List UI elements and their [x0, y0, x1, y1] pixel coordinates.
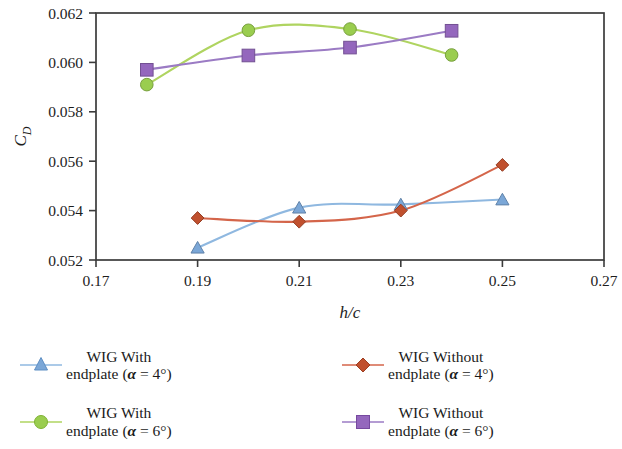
- legend-entry-wig-without-endplate-alpha4[interactable]: WIG Without endplate (α = 4°): [320, 338, 622, 393]
- legend-label-line2: endplate (α = 4°): [66, 365, 172, 382]
- square-marker-icon: [340, 409, 386, 435]
- x-tick-label: 0.27: [590, 272, 617, 289]
- chart-svg: 0.170.190.210.230.250.27 0.0520.0540.056…: [0, 0, 622, 340]
- legend-entry-wig-without-endplate-alpha6[interactable]: WIG Without endplate (α = 6°): [320, 395, 622, 449]
- legend-label-line1: WIG Without: [398, 348, 483, 365]
- y-tick-label: 0.058: [48, 103, 83, 120]
- series-line-1: [198, 165, 503, 222]
- svg-text:CD: CD: [11, 126, 34, 146]
- circle-marker-icon: [18, 409, 64, 435]
- x-tick-label: 0.21: [286, 272, 313, 289]
- y-tick-label: 0.056: [48, 153, 83, 170]
- figure-container: 0.170.190.210.230.250.27 0.0520.0540.056…: [0, 0, 622, 449]
- legend-label-line2: endplate (α = 6°): [388, 422, 494, 439]
- legend-label: WIG With endplate (α = 4°): [64, 348, 172, 383]
- legend-label-line2: endplate (α = 4°): [388, 365, 494, 382]
- legend-label: WIG Without endplate (α = 4°): [386, 348, 494, 383]
- y-axis-title: CD: [11, 126, 34, 146]
- plot-area: 0.170.190.210.230.250.27 0.0520.0540.056…: [0, 0, 622, 340]
- legend-label: WIG Without endplate (α = 6°): [386, 404, 494, 439]
- data-point-marker: [242, 49, 255, 62]
- x-tick-label: 0.25: [489, 272, 516, 289]
- y-tick-label: 0.062: [48, 5, 83, 22]
- legend-label-line2: endplate (α = 6°): [66, 422, 172, 439]
- data-point-marker: [344, 41, 357, 54]
- x-tick-label: 0.19: [184, 272, 211, 289]
- legend-entry-wig-with-endplate-alpha6[interactable]: WIG With endplate (α = 6°): [18, 395, 320, 449]
- y-axis-tick-labels: 0.0520.0540.0560.0580.0600.062: [48, 5, 83, 269]
- triangle-marker-icon: [18, 352, 64, 378]
- legend-label-line1: WIG With: [86, 348, 151, 365]
- x-axis-title: h/c: [340, 303, 361, 322]
- y-tick-label: 0.060: [48, 54, 83, 71]
- x-axis-ticks: [96, 260, 604, 267]
- x-tick-label: 0.17: [82, 272, 109, 289]
- data-point-marker: [242, 24, 255, 37]
- series-line-2: [147, 25, 452, 85]
- diamond-marker-icon: [340, 352, 386, 378]
- data-point-marker: [445, 24, 458, 37]
- data-point-marker: [191, 241, 204, 253]
- data-point-marker: [344, 23, 357, 36]
- data-point-marker: [141, 78, 154, 91]
- data-point-marker: [191, 212, 204, 225]
- data-point-marker: [293, 215, 306, 228]
- series-line-0: [198, 199, 503, 247]
- x-axis-tick-labels: 0.170.190.210.230.250.27: [82, 272, 617, 289]
- data-point-marker: [445, 49, 458, 62]
- series-markers: [141, 23, 510, 253]
- chart-legend: WIG With endplate (α = 4°) WIG Without e…: [0, 338, 622, 449]
- y-tick-label: 0.052: [48, 252, 83, 269]
- data-point-marker: [496, 159, 509, 172]
- legend-entry-wig-with-endplate-alpha4[interactable]: WIG With endplate (α = 4°): [18, 338, 320, 393]
- legend-label-line1: WIG With: [86, 404, 151, 421]
- y-tick-label: 0.054: [48, 202, 83, 219]
- legend-label-line1: WIG Without: [398, 404, 483, 421]
- x-tick-label: 0.23: [387, 272, 414, 289]
- data-point-marker: [141, 64, 154, 77]
- y-axis-ticks: [89, 13, 96, 260]
- series-line-3: [147, 31, 452, 70]
- legend-label: WIG With endplate (α = 6°): [64, 404, 172, 439]
